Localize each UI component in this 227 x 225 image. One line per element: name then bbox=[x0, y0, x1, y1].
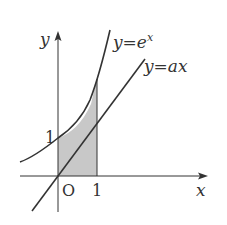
exp-curve-label: y=ex bbox=[112, 31, 154, 52]
exp-label-base: e bbox=[137, 32, 147, 52]
function-graph-diagram: y x O 1 1 y=ex y=ax bbox=[0, 0, 227, 225]
exp-label-prefix: y= bbox=[112, 32, 137, 52]
origin-label: O bbox=[62, 181, 75, 200]
x-tick-1-label: 1 bbox=[92, 181, 102, 200]
linear-line-label: y=ax bbox=[143, 56, 188, 76]
y-axis-label: y bbox=[39, 29, 50, 49]
graph-svg: y x O 1 1 y=ex y=ax bbox=[0, 0, 227, 225]
y-tick-1-label: 1 bbox=[45, 128, 55, 147]
x-axis-label: x bbox=[196, 180, 206, 200]
exp-label-sup: x bbox=[147, 31, 154, 44]
